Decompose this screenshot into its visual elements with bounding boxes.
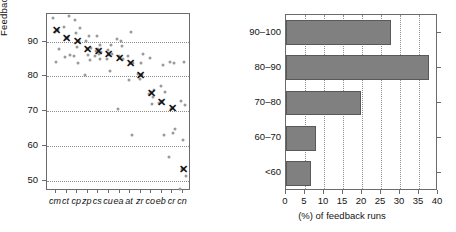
left-y-tick-label: 60 — [16, 140, 38, 150]
right-x-tick-label: 35 — [413, 196, 424, 206]
left-x-category-label: cm — [49, 197, 61, 206]
left-data-point — [161, 64, 164, 67]
right-x-tick-mark — [399, 190, 400, 194]
right-y-category-label: 60–70 — [227, 132, 281, 142]
left-y-tick-label: 80 — [16, 70, 38, 80]
left-data-point — [83, 74, 86, 77]
left-x-category-label: at — [125, 197, 133, 206]
left-gridline — [47, 181, 189, 182]
left-x-tick-mark — [87, 190, 88, 193]
right-y-category-label: 90–100 — [227, 27, 281, 37]
left-x-tick-mark — [55, 190, 56, 193]
right-y-tick-mark — [437, 137, 441, 138]
right-gridline — [419, 15, 420, 189]
left-data-point — [184, 103, 187, 106]
right-bar — [286, 161, 311, 186]
right-bar — [286, 91, 361, 116]
left-x-category-label: zr — [136, 197, 144, 206]
left-mean-marker: ✕ — [168, 102, 177, 113]
left-mean-marker: ✕ — [62, 32, 71, 43]
left-data-point — [172, 131, 175, 134]
left-data-point — [159, 85, 162, 88]
left-data-point — [119, 40, 122, 43]
left-x-tick-mark — [150, 190, 151, 193]
left-data-point — [52, 17, 55, 20]
right-y-category-label: <60 — [227, 168, 281, 178]
left-data-point — [151, 102, 154, 105]
right-y-tick-mark — [437, 67, 441, 68]
left-data-point — [180, 99, 183, 102]
left-data-point — [68, 53, 71, 56]
left-data-point — [174, 127, 177, 130]
left-x-tick-mark — [76, 190, 77, 193]
left-mean-marker: ✕ — [94, 46, 103, 57]
left-data-point — [108, 70, 111, 73]
left-panel-scatter: Feedback accuracy (%) ✕✕✕✕✕✕✕✕✕✕✕✕✕ 5060… — [0, 0, 228, 232]
right-bar — [286, 55, 429, 80]
right-y-category-label: 80–90 — [227, 62, 281, 72]
left-x-category-label: eb — [156, 197, 166, 206]
left-data-point — [185, 175, 188, 178]
left-x-tick-mark — [108, 190, 109, 193]
left-data-point — [116, 107, 119, 110]
left-x-category-label: cs — [93, 197, 102, 206]
right-x-tick-mark — [418, 190, 419, 194]
right-y-tick-mark — [437, 32, 441, 33]
right-bar — [286, 20, 391, 45]
left-data-point — [77, 61, 80, 64]
left-gridline — [47, 76, 189, 77]
right-y-tick-mark — [437, 102, 441, 103]
left-x-category-label: zp — [82, 197, 92, 206]
left-data-point — [88, 58, 91, 61]
left-data-point — [162, 134, 165, 137]
left-data-point — [73, 54, 76, 57]
right-x-tick-label: 10 — [318, 196, 329, 206]
right-x-tick-mark — [342, 190, 343, 194]
figure-two-panel-feedback-accuracy: Feedback accuracy (%) ✕✕✕✕✕✕✕✕✕✕✕✕✕ 5060… — [0, 0, 456, 232]
left-data-point — [149, 56, 152, 59]
left-mean-marker: ✕ — [126, 57, 135, 68]
left-y-tick-label: 70 — [16, 105, 38, 115]
right-panel-bar: (%) of feedback runs 0510152025303540<60… — [228, 0, 456, 232]
left-mean-marker: ✕ — [104, 49, 113, 60]
left-data-point — [130, 30, 133, 33]
left-data-point — [182, 139, 185, 142]
left-data-point — [63, 56, 66, 59]
left-x-category-label: cr — [168, 197, 176, 206]
left-data-point — [115, 37, 118, 40]
left-data-point — [128, 79, 131, 82]
left-x-category-label: ct — [62, 197, 69, 206]
left-mean-marker: ✕ — [115, 52, 124, 63]
left-data-point — [55, 60, 58, 63]
left-data-point — [74, 18, 77, 21]
left-x-tick-mark — [140, 190, 141, 193]
left-plot-area: ✕✕✕✕✕✕✕✕✕✕✕✕✕ — [46, 13, 190, 190]
right-x-tick-label: 15 — [337, 196, 348, 206]
left-x-category-label: ea — [114, 197, 124, 206]
left-data-point — [183, 61, 186, 64]
left-x-category-label: cu — [103, 197, 113, 206]
right-bar — [286, 126, 316, 151]
left-data-point — [173, 61, 176, 64]
left-data-point — [139, 61, 142, 64]
left-data-point — [67, 15, 70, 18]
left-mean-marker: ✕ — [83, 44, 92, 55]
left-mean-marker: ✕ — [73, 35, 82, 46]
right-x-tick-mark — [323, 190, 324, 194]
left-x-tick-mark — [97, 190, 98, 193]
right-x-tick-mark — [380, 190, 381, 194]
right-x-tick-mark — [361, 190, 362, 194]
left-y-axis-title: Feedback accuracy (%) — [0, 0, 9, 36]
left-x-category-label: cn — [177, 197, 187, 206]
right-x-tick-label: 0 — [282, 196, 287, 206]
left-data-point — [141, 52, 144, 55]
left-data-point — [169, 60, 172, 63]
left-data-point — [99, 57, 102, 60]
left-data-point — [62, 25, 65, 28]
left-x-tick-mark — [129, 190, 130, 193]
left-mean-marker: ✕ — [147, 88, 156, 99]
left-x-category-label: cp — [71, 197, 81, 206]
left-mean-marker: ✕ — [179, 164, 188, 175]
left-mean-marker: ✕ — [52, 24, 61, 35]
left-x-tick-mark — [119, 190, 120, 193]
